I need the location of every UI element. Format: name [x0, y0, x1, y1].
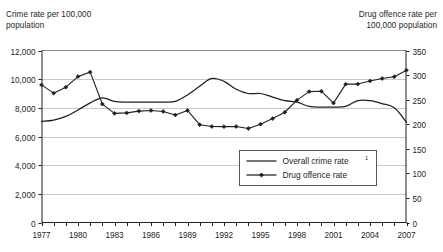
series-marker-diamond	[88, 70, 92, 74]
x-tick-label: 1980	[69, 231, 88, 240]
legend-label-1[interactable]: Overall crime rate	[283, 156, 349, 166]
x-tick-label: 1989	[178, 231, 197, 240]
x-tick-label: 1995	[251, 231, 270, 240]
series-marker-diamond	[149, 109, 153, 113]
right-tick-label: 100	[413, 170, 427, 179]
x-tick-label: 1983	[105, 231, 124, 240]
left-tick-label: 2,000	[15, 191, 36, 200]
series-marker-diamond	[161, 109, 165, 113]
series-line-overall-crime-rate	[42, 78, 407, 122]
left-tick-label: 4,000	[15, 162, 36, 171]
right-tick-label: 150	[413, 146, 427, 155]
left-tick-label: 0	[31, 220, 36, 229]
right-tick-label: 350	[413, 48, 427, 57]
left-tick-label: 6,000	[15, 134, 36, 143]
right-tick-label: 300	[413, 72, 427, 81]
legend-label-superscript-1: 1	[365, 155, 368, 161]
x-tick-label: 1992	[215, 231, 234, 240]
x-tick-label: 1986	[142, 231, 161, 240]
series-marker-diamond	[234, 125, 238, 129]
series-marker-diamond	[271, 117, 275, 121]
right-tick-label: 200	[413, 121, 427, 130]
left-tick-label: 10,000	[10, 76, 35, 85]
series-marker-diamond	[222, 125, 226, 129]
right-tick-label: 50	[413, 195, 423, 204]
series-marker-diamond	[125, 111, 129, 115]
x-tick-label: 2001	[324, 231, 343, 240]
series-marker-diamond	[173, 113, 177, 117]
series-marker-diamond	[137, 109, 141, 113]
plot-area: 02,0004,0006,0008,00010,00012,0000501001…	[0, 0, 443, 252]
line-chart-svg: 02,0004,0006,0008,00010,00012,0000501001…	[0, 0, 443, 252]
x-tick-label: 1977	[32, 231, 51, 240]
x-tick-label: 1998	[288, 231, 307, 240]
series-marker-diamond	[210, 125, 214, 129]
series-marker-diamond	[392, 75, 396, 79]
series-marker-diamond	[259, 122, 263, 126]
series-marker-diamond	[405, 68, 409, 72]
chart-figure: Crime rate per 100,000 population Drug o…	[0, 0, 443, 252]
x-tick-label: 2004	[361, 231, 380, 240]
right-tick-label: 250	[413, 97, 427, 106]
left-tick-label: 8,000	[15, 105, 36, 114]
legend-label-2[interactable]: Drug offence rate	[283, 170, 348, 180]
series-marker-diamond	[356, 82, 360, 86]
left-tick-label: 12,000	[10, 48, 35, 57]
right-tick-label: 0	[413, 220, 418, 229]
series-marker-diamond	[246, 127, 250, 131]
x-tick-label: 2007	[397, 231, 416, 240]
